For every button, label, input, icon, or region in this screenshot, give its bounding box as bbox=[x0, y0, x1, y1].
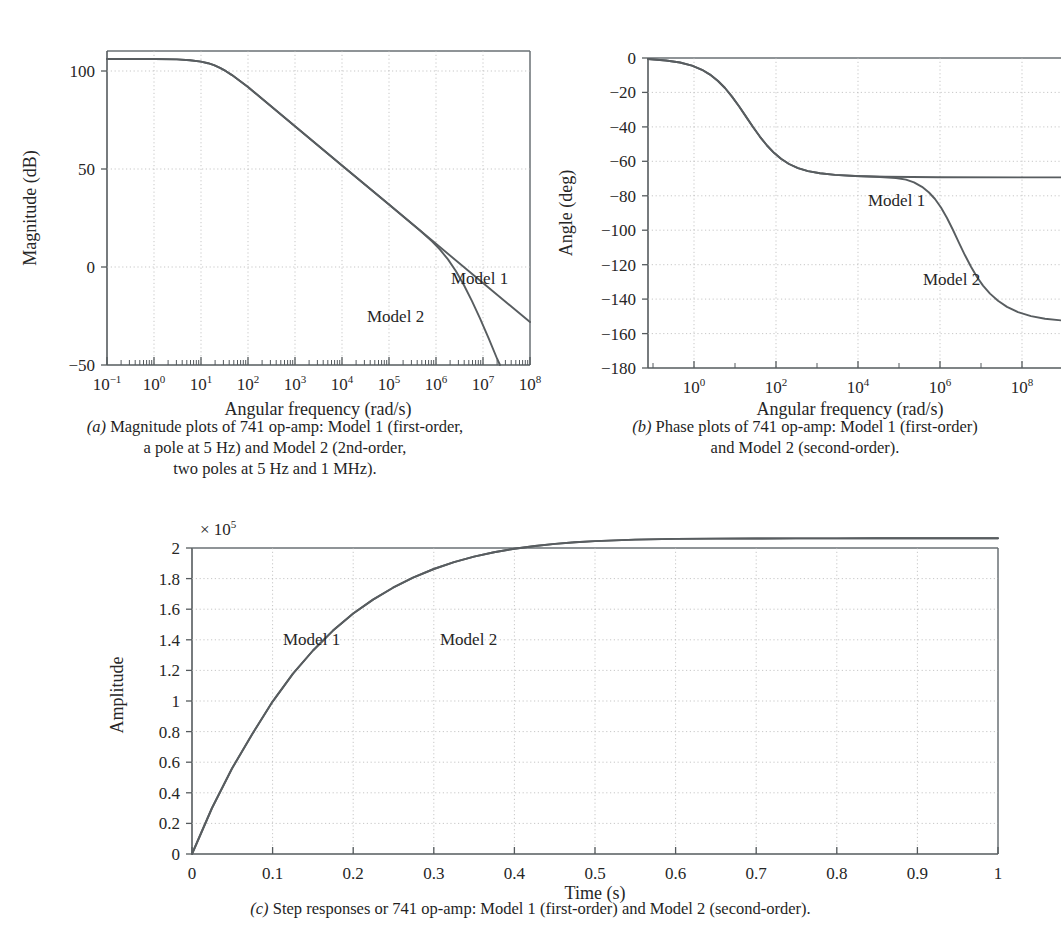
panel-b-x-ticks bbox=[653, 361, 1022, 368]
svg-text:1: 1 bbox=[172, 692, 181, 711]
svg-text:0.3: 0.3 bbox=[423, 864, 444, 883]
svg-text:102: 102 bbox=[237, 373, 260, 394]
panel-c-y-exponent-label: × 105 bbox=[200, 518, 237, 539]
svg-text:100: 100 bbox=[143, 373, 166, 394]
panel-a-y-axis-title: Magnitude (dB) bbox=[20, 150, 41, 265]
panel-c-caption-line1: Step responses or 741 op-amp: Model 1 (f… bbox=[269, 899, 811, 918]
svg-text:0.2: 0.2 bbox=[343, 864, 364, 883]
panel-a-vertical-gridlines bbox=[154, 51, 483, 365]
svg-text:1: 1 bbox=[994, 864, 1003, 883]
panel-b-frame bbox=[648, 58, 1061, 368]
svg-text:−40: −40 bbox=[609, 118, 636, 137]
panel-b-label-model-1: Model 1 bbox=[868, 191, 925, 210]
svg-text:0: 0 bbox=[172, 845, 181, 864]
svg-text:104: 104 bbox=[331, 373, 354, 394]
panel-b-phase-plot: Angle (deg) bbox=[540, 0, 1061, 415]
svg-text:104: 104 bbox=[847, 376, 870, 397]
panel-a-caption-line1: Magnitude plots of 741 op-amp: Model 1 (… bbox=[106, 417, 463, 436]
svg-text:101: 101 bbox=[190, 373, 213, 394]
svg-text:0: 0 bbox=[87, 258, 96, 277]
svg-text:0.8: 0.8 bbox=[159, 723, 180, 742]
svg-text:−180: −180 bbox=[601, 359, 636, 378]
svg-text:0.8: 0.8 bbox=[826, 864, 847, 883]
svg-text:108: 108 bbox=[519, 373, 542, 394]
panel-b-y-tick-labels: 0 −20 −40 −60 −80 −100 −120 −140 −160 −1… bbox=[601, 49, 636, 378]
svg-text:106: 106 bbox=[425, 373, 448, 394]
svg-text:0.7: 0.7 bbox=[746, 864, 768, 883]
svg-text:1.6: 1.6 bbox=[159, 600, 180, 619]
svg-text:0.1: 0.1 bbox=[262, 864, 283, 883]
svg-text:106: 106 bbox=[929, 376, 952, 397]
panel-c-label-model-2: Model 2 bbox=[440, 630, 497, 649]
panel-b-curve-model-2 bbox=[648, 59, 1061, 320]
svg-text:0.2: 0.2 bbox=[159, 814, 180, 833]
panel-b-caption-line2: and Model 2 (second-order). bbox=[711, 438, 900, 457]
panel-c-y-tick-labels: 2 1.8 1.6 1.4 1.2 1 0.8 0.6 0.4 0.2 0 bbox=[159, 539, 181, 864]
svg-text:1.2: 1.2 bbox=[159, 661, 180, 680]
svg-text:0.4: 0.4 bbox=[159, 784, 181, 803]
svg-text:−50: −50 bbox=[68, 356, 95, 375]
panel-a-horizontal-gridlines bbox=[107, 71, 530, 267]
panel-a-label-model-2: Model 2 bbox=[367, 307, 424, 326]
panel-c-x-tick-labels: 0 0.1 0.2 0.3 0.4 0.5 0.6 0.7 0.8 0.9 1 bbox=[188, 864, 1003, 883]
panel-a-y-tick-labels: 100 50 0 −50 bbox=[68, 62, 95, 375]
panel-a-caption-prefix: (a) bbox=[87, 417, 106, 436]
panel-b-caption-prefix: (b) bbox=[632, 417, 651, 436]
panel-a-x-ticks bbox=[107, 357, 530, 365]
svg-text:0.9: 0.9 bbox=[907, 864, 928, 883]
panel-a-caption-line3: two poles at 5 Hz and 1 MHz). bbox=[173, 459, 376, 478]
svg-text:108: 108 bbox=[1011, 376, 1034, 397]
svg-text:107: 107 bbox=[472, 373, 495, 394]
svg-text:102: 102 bbox=[765, 376, 788, 397]
svg-text:0.5: 0.5 bbox=[584, 864, 605, 883]
panel-a-svg: Magnitude (dB) bbox=[0, 0, 545, 415]
panel-a-curve-model-2 bbox=[107, 59, 500, 365]
svg-text:−80: −80 bbox=[609, 187, 636, 206]
panel-c-svg: Amplitude × 105 bbox=[0, 490, 1061, 900]
svg-text:105: 105 bbox=[378, 373, 401, 394]
panel-a-y-ticks bbox=[101, 71, 107, 365]
panel-a-frame bbox=[107, 51, 530, 365]
svg-text:−100: −100 bbox=[601, 221, 636, 240]
panel-c-x-ticks bbox=[192, 847, 998, 854]
svg-text:−120: −120 bbox=[601, 256, 636, 275]
svg-text:−20: −20 bbox=[609, 83, 636, 102]
panel-b-y-axis-title: Angle (deg) bbox=[556, 170, 577, 256]
panel-b-horizontal-gridlines bbox=[648, 92, 1061, 333]
panel-b-x-tick-labels: 100 102 104 106 108 bbox=[683, 376, 1034, 397]
svg-text:0.4: 0.4 bbox=[504, 864, 526, 883]
panel-c-caption: (c) Step responses or 741 op-amp: Model … bbox=[0, 898, 1061, 919]
panel-a-caption: (a) Magnitude plots of 741 op-amp: Model… bbox=[40, 416, 510, 479]
svg-text:2: 2 bbox=[172, 539, 181, 558]
panel-c-step-response-plot: Amplitude × 105 bbox=[0, 490, 1061, 900]
svg-text:−160: −160 bbox=[601, 325, 636, 344]
svg-text:0: 0 bbox=[628, 49, 637, 68]
panel-c-y-axis-title: Amplitude bbox=[107, 656, 127, 733]
panel-a-label-model-1: Model 1 bbox=[451, 269, 508, 288]
panel-c-caption-prefix: (c) bbox=[250, 899, 268, 918]
svg-text:0.6: 0.6 bbox=[159, 753, 180, 772]
panel-a-x-tick-labels: 10−1 100 101 102 103 104 105 106 107 108 bbox=[93, 373, 542, 394]
panel-b-vertical-gridlines bbox=[694, 58, 1022, 368]
panel-c-vertical-gridlines bbox=[273, 548, 918, 854]
panel-b-caption: (b) Phase plots of 741 op-amp: Model 1 (… bbox=[585, 416, 1025, 458]
svg-text:−60: −60 bbox=[609, 152, 636, 171]
panel-c-label-model-1: Model 1 bbox=[283, 630, 340, 649]
svg-text:0: 0 bbox=[188, 864, 197, 883]
svg-text:50: 50 bbox=[78, 160, 95, 179]
panel-b-y-ticks bbox=[642, 58, 648, 368]
svg-text:10−1: 10−1 bbox=[93, 373, 122, 394]
panel-a-caption-line2: a pole at 5 Hz) and Model 2 (2nd-order, bbox=[144, 438, 407, 457]
svg-text:100: 100 bbox=[70, 62, 96, 81]
panel-a-magnitude-plot: Magnitude (dB) bbox=[0, 0, 545, 415]
svg-text:−140: −140 bbox=[601, 290, 636, 309]
svg-text:1.8: 1.8 bbox=[159, 570, 180, 589]
panel-b-caption-line1: Phase plots of 741 op-amp: Model 1 (firs… bbox=[651, 417, 977, 436]
panel-b-curve-model-1 bbox=[648, 59, 1061, 177]
svg-text:103: 103 bbox=[284, 373, 307, 394]
panel-b-svg: Angle (deg) bbox=[540, 0, 1061, 415]
svg-text:100: 100 bbox=[683, 376, 706, 397]
svg-text:0.6: 0.6 bbox=[665, 864, 686, 883]
svg-text:1.4: 1.4 bbox=[159, 631, 181, 650]
panel-c-y-ticks bbox=[186, 548, 192, 854]
